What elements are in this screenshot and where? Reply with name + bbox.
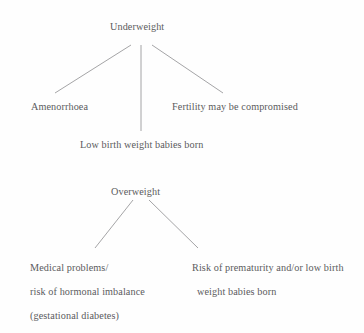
node-fertility-compromised: Fertility may be compromised [172, 98, 298, 116]
node-underweight-root: Underweight [110, 18, 164, 36]
edge-overweight-medical [95, 200, 133, 248]
node-overweight-root: Overweight [111, 183, 160, 201]
node-prematurity-risk: Risk of prematurity and/or low birth wei… [192, 256, 344, 304]
node-medical-problems-line-3: (gestational diabetes) [30, 304, 145, 328]
node-medical-problems-line-1: Medical problems/ [30, 256, 145, 280]
node-medical-problems: Medical problems/ risk of hormonal imbal… [30, 256, 145, 328]
diagram-page: Underweight Amenorrhoea Low birth weight… [0, 0, 364, 333]
node-prematurity-risk-line-1: Risk of prematurity and/or low birth [192, 256, 344, 280]
edge-overweight-prematurity [149, 200, 198, 248]
node-low-birth-weight: Low birth weight babies born [80, 136, 203, 154]
node-amenorrhoea: Amenorrhoea [31, 98, 88, 116]
weight-risk-diagram: Underweight Amenorrhoea Low birth weight… [0, 0, 364, 333]
edge-underweight-fertility [152, 45, 223, 93]
edge-underweight-amenorrhoea [55, 45, 131, 93]
node-medical-problems-line-2: risk of hormonal imbalance [30, 280, 145, 304]
node-prematurity-risk-line-2: weight babies born [192, 280, 344, 304]
